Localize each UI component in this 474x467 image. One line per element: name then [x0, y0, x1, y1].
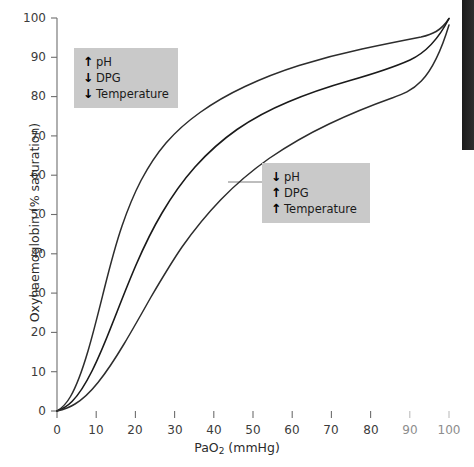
annotation-row-ph: ↓pH	[271, 169, 360, 185]
x-tick-label-60: 60	[272, 424, 312, 436]
annotation-row-dpg: ↓DPG	[83, 70, 168, 86]
arrow-up-icon: ↑	[83, 54, 96, 70]
oxyhaemoglobin-dissociation-chart: 100 90 80 70 60 50 40 30 20 10 0 0 10 20…	[0, 0, 474, 467]
annotation-box-right-shift: ↓pH ↑DPG ↑Temperature	[262, 163, 370, 223]
x-tick-label-0: 0	[37, 424, 77, 436]
annotation-row-dpg: ↑DPG	[271, 185, 360, 201]
arrow-up-icon: ↑	[271, 185, 284, 201]
x-axis-ticks-faint	[410, 411, 449, 418]
annotation-label-dpg: DPG	[96, 70, 121, 86]
arrow-down-icon: ↓	[271, 169, 284, 185]
x-tick-label-70: 70	[311, 424, 351, 436]
x-tick-label-20: 20	[115, 424, 155, 436]
y-axis-ticks	[51, 18, 57, 411]
annotation-row-temperature: ↓Temperature	[83, 86, 168, 102]
x-axis-title-subscript: 2	[219, 446, 225, 456]
y-axis-title: Oxyhaemoglobin (% saturation)	[27, 103, 42, 343]
annotation-row-temperature: ↑Temperature	[271, 201, 360, 217]
y-tick-label-100: 100	[12, 12, 46, 24]
x-tick-label-80: 80	[351, 424, 391, 436]
y-tick-label-0: 0	[12, 405, 46, 417]
x-tick-label-40: 40	[194, 424, 234, 436]
x-axis-ticks	[57, 411, 371, 418]
x-axis-title-unit: (mmHg)	[224, 440, 279, 455]
x-tick-label-50: 50	[233, 424, 273, 436]
x-tick-label-10: 10	[76, 424, 116, 436]
x-tick-label-90: 90	[390, 424, 430, 436]
right-edge-bar	[462, 0, 474, 150]
y-tick-label-90: 90	[12, 51, 46, 63]
annotation-label-ph: pH	[284, 169, 300, 185]
x-tick-label-30: 30	[155, 424, 195, 436]
chart-canvas	[0, 0, 474, 467]
y-tick-label-10: 10	[12, 366, 46, 378]
annotation-label-temperature: Temperature	[96, 86, 169, 102]
x-axis-title: PaO2 (mmHg)	[0, 440, 474, 455]
annotation-label-temperature: Temperature	[284, 201, 357, 217]
arrow-up-icon: ↑	[271, 201, 284, 217]
annotation-row-ph: ↑pH	[83, 54, 168, 70]
arrow-down-icon: ↓	[83, 70, 96, 86]
annotation-label-dpg: DPG	[284, 185, 309, 201]
annotation-label-ph: pH	[96, 54, 112, 70]
x-tick-label-100: 100	[429, 424, 469, 436]
y-tick-label-80: 80	[12, 90, 46, 102]
annotation-box-left-shift: ↑pH ↓DPG ↓Temperature	[74, 48, 178, 108]
arrow-down-icon: ↓	[83, 86, 96, 102]
x-axis-title-base: PaO	[194, 440, 218, 455]
